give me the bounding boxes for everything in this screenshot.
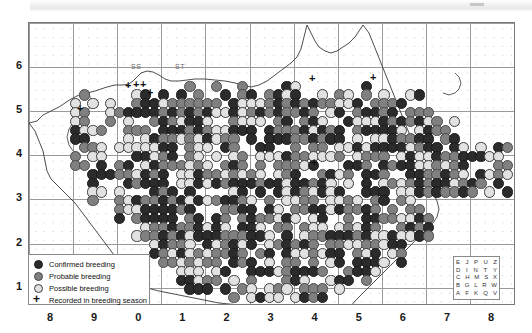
y-tick-label: 3	[2, 191, 22, 203]
x-tick-label: 8	[38, 311, 62, 323]
x-tick-label: 2	[214, 311, 238, 323]
letter-key-cell: H	[465, 274, 469, 281]
letter-key-cell: D	[456, 267, 460, 274]
plus-marker: +	[133, 80, 139, 89]
probable-breeding-icon	[34, 272, 43, 281]
plus-marker: +	[140, 80, 146, 89]
letter-key-cell: Q	[483, 290, 488, 297]
record-dot	[484, 186, 495, 197]
y-tick-label: 4	[2, 147, 22, 159]
record-dot	[502, 169, 513, 180]
grid-line-horizontal	[29, 67, 514, 68]
record-dot	[361, 89, 372, 100]
record-dot	[343, 178, 354, 189]
letter-key-cell: P	[474, 259, 478, 266]
x-tick-label: 4	[303, 311, 327, 323]
record-dot	[370, 266, 381, 277]
letter-key-cell: S	[484, 274, 488, 281]
x-tick-label: 9	[82, 311, 106, 323]
record-dot	[334, 283, 345, 294]
letter-key-box: EJPUZDINTYCHMSXBGLRWAFKQV	[453, 256, 500, 300]
legend-item-probable: Probable breeding	[34, 271, 149, 282]
record-dot	[255, 116, 266, 127]
letter-key-cell: T	[484, 267, 488, 274]
plus-marker: +	[125, 81, 131, 90]
letter-key-cell: K	[474, 290, 478, 297]
plus-marker: +	[370, 73, 376, 82]
x-tick-label: 3	[259, 311, 283, 323]
plus-marker: +	[309, 74, 315, 83]
letter-key-cell: F	[465, 290, 469, 297]
legend-label-recorded: Recorded in breeding season	[49, 295, 147, 306]
legend-label-confirmed: Confirmed breeding	[49, 259, 115, 270]
record-dot	[423, 230, 434, 241]
letter-key-cell: A	[456, 290, 460, 297]
x-tick-label: 8	[479, 311, 503, 323]
record-dot	[414, 89, 425, 100]
record-dot	[343, 275, 354, 286]
letter-key-cell: I	[466, 267, 468, 274]
y-tick-label: 6	[2, 59, 22, 71]
letter-key-cell: E	[456, 259, 460, 266]
letter-key-row: CHMSX	[456, 274, 497, 281]
letter-key-cell: G	[465, 282, 470, 289]
record-dot	[361, 275, 372, 286]
letter-key-cell: M	[474, 274, 479, 281]
atlas-map-figure: SSST ++++++++ 89012345678 654321 Confirm…	[0, 0, 532, 333]
x-tick-label: 5	[347, 311, 371, 323]
letter-key-cell: J	[466, 259, 469, 266]
record-dot	[502, 186, 513, 197]
x-tick-label: 0	[126, 311, 150, 323]
record-dot	[87, 195, 98, 206]
letter-key-cell: W	[491, 282, 497, 289]
plus-marker: +	[311, 158, 317, 167]
record-dot	[114, 213, 125, 224]
letter-key-cell: R	[482, 282, 486, 289]
x-tick-label: 1	[170, 311, 194, 323]
record-dot	[378, 257, 389, 268]
letter-key-cell: U	[483, 259, 487, 266]
record-dot	[228, 292, 239, 303]
legend-label-possible: Possible breeding	[49, 283, 109, 294]
grid-line-vertical	[514, 23, 515, 304]
x-tick-label: 7	[435, 311, 459, 323]
letter-key-cell: L	[474, 282, 477, 289]
letter-key-cell: N	[473, 267, 477, 274]
letter-key-cell: C	[456, 274, 460, 281]
plus-marker: +	[77, 104, 83, 113]
page-header-strip	[30, 0, 532, 12]
y-tick-label: 5	[2, 103, 22, 115]
plus-marker-icon: +	[33, 293, 40, 305]
y-tick-label: 1	[2, 280, 22, 292]
record-dot	[202, 283, 213, 294]
legend-item-possible: Possible breeding	[34, 283, 149, 294]
x-tick-label: 6	[391, 311, 415, 323]
legend-item-confirmed: Confirmed breeding	[34, 259, 149, 270]
record-dot	[87, 98, 98, 109]
letter-key-cell: Y	[493, 267, 497, 274]
record-dot	[96, 186, 107, 197]
y-tick-label: 2	[2, 236, 22, 248]
letter-key-cell: Z	[493, 259, 497, 266]
grid-square-label: SS	[131, 63, 142, 70]
letter-key-row: BGLRW	[456, 282, 497, 289]
letter-key-row: EJPUZ	[456, 259, 497, 266]
letter-key-cell: X	[493, 274, 497, 281]
header-tick-mark	[470, 3, 484, 6]
legend-box: Confirmed breeding Probable breeding Pos…	[28, 254, 150, 305]
letter-key-cell: B	[456, 282, 460, 289]
legend-label-probable: Probable breeding	[49, 271, 110, 282]
letter-key-cell: V	[493, 290, 497, 297]
record-dot	[467, 186, 478, 197]
grid-square-label: ST	[175, 63, 185, 70]
grid-line-horizontal	[29, 23, 514, 24]
plus-marker: +	[147, 88, 153, 97]
letter-key-row: AFKQV	[456, 290, 497, 297]
confirmed-breeding-icon	[34, 260, 43, 269]
letter-key-row: DINTY	[456, 267, 497, 274]
record-dot	[449, 116, 460, 127]
legend-item-recorded: + Recorded in breeding season	[34, 295, 149, 306]
